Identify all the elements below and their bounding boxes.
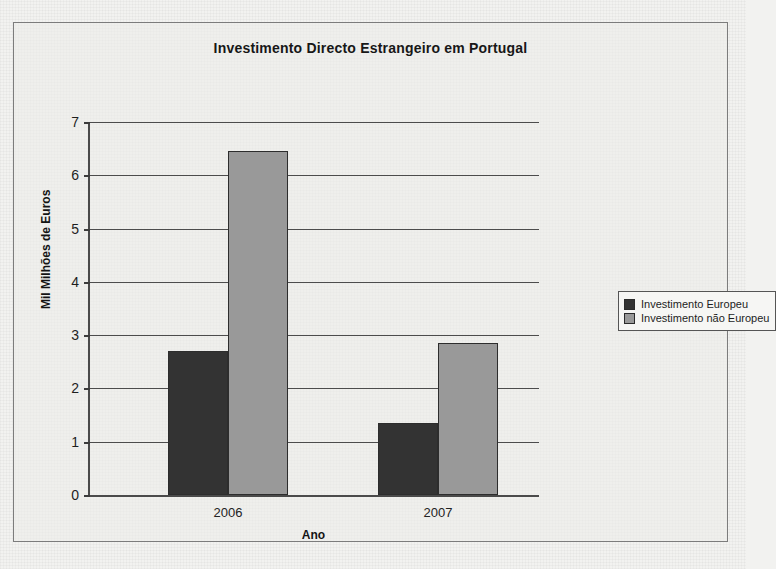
gridline	[90, 229, 539, 230]
chart-title: Investimento Directo Estrangeiro em Port…	[14, 40, 727, 56]
y-axis-tick-label: 5	[71, 221, 79, 237]
y-axis-tick-mark	[84, 229, 90, 231]
chart-legend: Investimento EuropeuInvestimento não Eur…	[618, 291, 776, 331]
y-axis-tick-label: 0	[71, 487, 79, 503]
y-axis-tick-mark	[84, 442, 90, 444]
plot-area: 01234567 20062007	[88, 122, 539, 497]
y-axis-tick-mark	[84, 495, 90, 497]
legend-item: Investimento não Europeu	[624, 312, 769, 324]
y-axis-tick-label: 2	[71, 380, 79, 396]
gridline	[90, 122, 539, 123]
legend-item-label: Investimento Europeu	[641, 298, 748, 310]
y-axis-tick-mark	[84, 175, 90, 177]
y-axis-tick-mark	[84, 335, 90, 337]
y-axis-tick-label: 1	[71, 434, 79, 450]
y-axis-tick-label: 4	[71, 274, 79, 290]
legend-item: Investimento Europeu	[624, 298, 769, 310]
gridline	[90, 282, 539, 283]
legend-swatch-icon	[624, 313, 635, 324]
y-axis-tick-label: 3	[71, 327, 79, 343]
y-axis-tick-label: 7	[71, 114, 79, 130]
bar	[438, 343, 498, 495]
x-axis-tick-label: 2006	[214, 505, 243, 520]
y-axis-tick-mark	[84, 388, 90, 390]
y-axis-tick-mark	[84, 122, 90, 124]
x-axis-tick-label: 2007	[424, 505, 453, 520]
bar	[228, 151, 288, 495]
y-axis-title: Mil Milhões de Euros	[39, 190, 53, 309]
y-axis-tick-mark	[84, 282, 90, 284]
chart-frame: Investimento Directo Estrangeiro em Port…	[13, 22, 728, 542]
bar	[168, 351, 228, 495]
x-axis-title: Ano	[88, 528, 539, 542]
gridline	[90, 335, 539, 336]
legend-item-label: Investimento não Europeu	[641, 312, 769, 324]
legend-swatch-icon	[624, 299, 635, 310]
y-axis-tick-label: 6	[71, 167, 79, 183]
gridline	[90, 175, 539, 176]
bar	[378, 423, 438, 495]
